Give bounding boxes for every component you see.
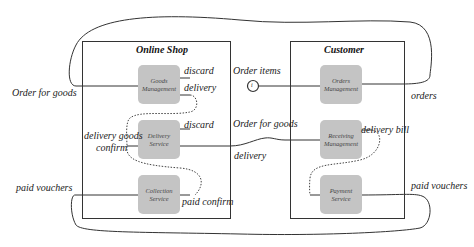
- node-label-line2: Service: [331, 195, 350, 203]
- delivery-mid-label: delivery: [234, 150, 266, 161]
- orders-management-node[interactable]: Orders Management: [320, 65, 362, 104]
- node-label-line1: Payment: [330, 187, 353, 195]
- interface-circle-icon: [248, 81, 259, 92]
- paid-confirm-label: paid confirm: [182, 196, 233, 207]
- delivery-goods-label: delivery: [184, 82, 216, 93]
- order-items-label: Order items: [233, 65, 281, 76]
- paid-vouchers-left-label: paid vouchers: [16, 182, 72, 193]
- receiving-management-node[interactable]: Receiving Management: [320, 120, 362, 159]
- delivery-bill-label: delivery bill: [361, 124, 409, 135]
- delivery-service-node[interactable]: Delivery Service: [138, 120, 180, 159]
- delivery-goods-confirm-label-1: delivery goods: [84, 130, 143, 141]
- node-label-line1: Goods: [151, 77, 168, 85]
- delivery-goods-confirm-label-2: confirm: [96, 142, 127, 153]
- node-label-line2: Management: [142, 85, 176, 93]
- goods-management-node[interactable]: Goods Management: [138, 65, 180, 104]
- online-shop-title: Online Shop: [136, 44, 188, 55]
- payment-service-node[interactable]: Payment Service: [320, 175, 362, 214]
- paid-vouchers-right-label: paid vouchers: [411, 180, 467, 191]
- node-label-line2: Service: [149, 140, 168, 148]
- node-label-line2: Management: [324, 140, 358, 148]
- collection-service-node[interactable]: Collection Service: [138, 175, 180, 214]
- orders-label: orders: [411, 90, 437, 101]
- discard-delivery-label: discard: [184, 119, 214, 130]
- node-label-line1: Collection: [145, 187, 172, 195]
- node-label-line2: Management: [324, 85, 358, 93]
- customer-title: Customer: [324, 44, 364, 55]
- node-label-line2: Service: [149, 195, 168, 203]
- node-label-line1: Orders: [332, 77, 350, 85]
- interface-glyph: i: [251, 80, 253, 91]
- order-for-goods-left-label: Order for goods: [12, 87, 77, 98]
- order-for-goods-mid-label: Order for goods: [233, 118, 298, 129]
- node-label-line1: Delivery: [148, 132, 170, 140]
- discard-goods-label: discard: [184, 65, 214, 76]
- node-label-line1: Receiving: [328, 132, 354, 140]
